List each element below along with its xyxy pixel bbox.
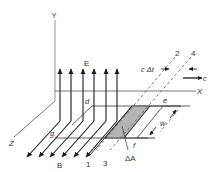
point-e-label: e [163,96,167,105]
c-delta-t-label: c Δt [141,65,155,74]
w-arrow-top [170,110,176,118]
line-3-label: 3 [103,159,108,168]
z-axis-label: Z [8,139,15,148]
delta-a-label: ΔA [125,154,136,163]
point-g-label: g [50,129,55,138]
line-2-label: 2 [175,49,180,58]
area-element [105,106,163,138]
line-1-label: 1 [86,160,91,169]
y-axis-label: Y [52,11,57,20]
b-field-label: B [57,161,62,170]
line-4-label: 4 [191,49,196,58]
w-arrow-bottom [150,127,156,135]
x-axis-label: X [196,87,203,96]
em-wave-diagram: Y X Z E B 1 2 3 4 [0,0,219,172]
point-f-label: f [133,141,136,150]
z-axis [14,101,55,137]
e-field-label: E [84,59,89,68]
point-d-label: d [85,97,90,106]
w-label: w [160,119,166,128]
e-field-arrows [60,69,117,121]
propagation-c-label: c [203,74,207,83]
